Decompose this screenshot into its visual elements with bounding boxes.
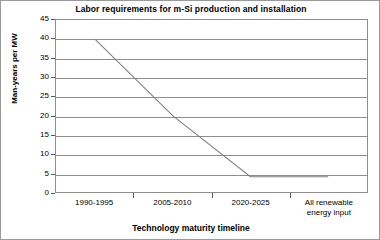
y-axis-tick-label: 10: [27, 149, 49, 158]
y-axis-tick-label: 25: [27, 91, 49, 100]
x-axis-title: Technology maturity timeline: [1, 223, 380, 233]
y-axis-tick-label: 20: [27, 111, 49, 120]
y-axis-tick-label: 35: [27, 53, 49, 62]
x-axis-tick-label: 2005-2010: [133, 198, 211, 208]
y-axis-tick-label: 40: [27, 33, 49, 42]
series-polyline: [95, 39, 328, 177]
x-axis-tick-label: All renewableenergy input: [290, 198, 368, 218]
y-axis-title: Man-years per MW: [10, 4, 19, 134]
y-axis-tick-mark: [51, 193, 55, 194]
plot-area: [55, 19, 368, 193]
y-axis-tick-label: 15: [27, 130, 49, 139]
y-axis-tick-label: 5: [27, 169, 49, 178]
y-axis-tick-label: 0: [27, 188, 49, 197]
chart-figure: Labor requirements for m-Si production a…: [0, 0, 380, 240]
y-axis-tick-label: 45: [27, 14, 49, 23]
x-axis-tick-label: 1990-1995: [55, 198, 133, 208]
data-series-line: [56, 20, 367, 192]
x-axis-tick-label: 2020-2025: [212, 198, 290, 208]
y-axis-tick-label: 30: [27, 72, 49, 81]
chart-title: Labor requirements for m-Si production a…: [1, 4, 380, 14]
